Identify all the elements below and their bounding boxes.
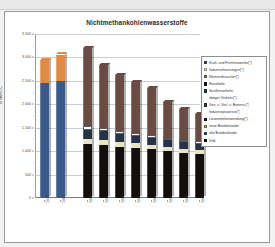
legend-item[interactable]: Kraft- und Fernheizwerke(*) bbox=[204, 59, 264, 66]
bar-segment bbox=[147, 88, 156, 135]
y-axis-minor-tick bbox=[33, 92, 34, 93]
legend-item[interactable]: Kleinverbraucher(*) bbox=[204, 73, 264, 80]
y-axis-tick-label: 0 bbox=[29, 196, 31, 200]
y-axis-minor-tick bbox=[33, 186, 34, 187]
legend-swatch-icon bbox=[204, 68, 207, 71]
bar-segment bbox=[83, 144, 92, 198]
y-axis-minor-tick bbox=[33, 69, 34, 70]
bar-segment bbox=[131, 82, 140, 133]
bar-segment bbox=[115, 134, 124, 142]
bar-segment bbox=[179, 142, 188, 148]
bar-segment bbox=[163, 102, 172, 137]
bar-segment bbox=[195, 154, 204, 198]
bar-segment bbox=[40, 60, 49, 83]
y-axis-minor-tick bbox=[33, 139, 34, 140]
y-axis-tick-label: 3.000 bbox=[22, 55, 31, 59]
bar-shadow bbox=[108, 63, 110, 196]
legend-item[interactable]: Haushalte bbox=[204, 80, 264, 87]
x-axis-tick-label: 1991 bbox=[105, 195, 109, 203]
x-axis-tick-label: 1992 bbox=[121, 195, 125, 203]
legend-swatch-icon bbox=[204, 139, 207, 142]
bar-segment bbox=[99, 140, 108, 145]
legend-item-label: Lösemittelverwendung(*) bbox=[209, 117, 248, 121]
bar-segment bbox=[163, 147, 172, 151]
legend-item[interactable]: Ges. u. Verl. v. Brennst.(*) bbox=[204, 102, 264, 109]
x-axis-tick bbox=[103, 200, 104, 202]
bar-segment bbox=[163, 140, 172, 147]
legend-swatch-icon bbox=[204, 111, 207, 114]
legend-item-label: Kleinverbraucher(*) bbox=[209, 75, 239, 79]
chart-screenshot: Nichtmethankohlenwasserstoffe kt NMVOC 0… bbox=[0, 0, 275, 247]
bar-top-cap bbox=[98, 63, 109, 65]
x-axis-tick-label: 1995 bbox=[169, 195, 173, 203]
bar-shadow bbox=[65, 53, 67, 196]
y-axis-tick bbox=[32, 127, 34, 128]
y-axis-tick-label: 3.500 bbox=[22, 32, 31, 36]
x-axis-tick bbox=[60, 200, 61, 202]
y-axis-minor-tick bbox=[33, 116, 34, 117]
bar-shadow bbox=[124, 73, 126, 196]
bar-segment bbox=[131, 133, 140, 136]
y-axis-tick bbox=[32, 198, 34, 199]
legend-item[interactable]: alte Bundesländer bbox=[204, 130, 264, 137]
bar-top-cap bbox=[130, 80, 141, 82]
y-axis-tick-label: 2.000 bbox=[22, 102, 31, 106]
chart-frame: Nichtmethankohlenwasserstoffe kt NMVOC 0… bbox=[4, 11, 270, 243]
x-axis-tick-label: 1996 bbox=[185, 195, 189, 203]
bar-top-cap bbox=[82, 46, 93, 48]
y-axis-minor-tick bbox=[33, 162, 34, 163]
y-axis-tick bbox=[32, 57, 34, 58]
bar-top-cap bbox=[114, 73, 125, 75]
legend-item-label: neue Bundesländer bbox=[209, 124, 239, 128]
legend-item[interactable]: Industriefeuerungen(*) bbox=[204, 66, 264, 73]
y-axis-tick bbox=[32, 151, 34, 152]
legend-item-label: Dtld. bbox=[209, 139, 216, 143]
bar-series-group bbox=[35, 34, 200, 198]
legend-item-label: übriger Verkehr(*) bbox=[209, 96, 237, 100]
x-axis-tick-label: 1993 bbox=[137, 195, 141, 203]
bar-segment bbox=[147, 135, 156, 138]
bar-segment bbox=[56, 81, 65, 198]
bar-top-cap bbox=[39, 58, 50, 60]
x-axis-tick-label: 1990 bbox=[89, 195, 93, 203]
legend-item-label: Industriefeuerungen(*) bbox=[209, 68, 244, 72]
bar-segment bbox=[115, 131, 124, 134]
bar-segment bbox=[131, 143, 140, 148]
x-axis-tick-label: 1980 bbox=[62, 195, 66, 203]
legend-swatch-icon bbox=[204, 118, 207, 121]
x-axis-tick bbox=[183, 200, 184, 202]
y-axis-tick bbox=[32, 174, 34, 175]
bar-segment bbox=[147, 149, 156, 198]
legend-item[interactable]: neue Bundesländer bbox=[204, 123, 264, 130]
bar-shadow bbox=[156, 86, 158, 196]
bar-segment bbox=[147, 138, 156, 145]
legend-swatch-icon bbox=[204, 61, 207, 64]
bar-segment bbox=[179, 140, 188, 142]
bar-segment bbox=[99, 131, 108, 139]
bar-segment bbox=[147, 145, 156, 150]
legend-item-label: Industrieprozesse(*) bbox=[209, 110, 240, 114]
legend-swatch-icon bbox=[204, 89, 207, 92]
x-axis-tick bbox=[151, 200, 152, 202]
legend-item[interactable]: Straßenverkehr bbox=[204, 87, 264, 94]
bar-segment bbox=[40, 83, 49, 198]
legend-item[interactable]: Industrieprozesse(*) bbox=[204, 109, 264, 116]
bar-top-cap bbox=[178, 107, 189, 109]
y-axis-tick-label: 1.000 bbox=[22, 149, 31, 153]
bar-top-cap bbox=[146, 86, 157, 88]
bar-segment bbox=[163, 138, 172, 141]
x-axis-tick-label: 1994 bbox=[153, 195, 157, 203]
bar-segment bbox=[99, 145, 108, 198]
y-axis-title: kt NMVOC bbox=[0, 86, 3, 104]
legend-item[interactable]: Dtld. bbox=[204, 137, 264, 144]
y-axis-tick-label: 2.500 bbox=[22, 79, 31, 83]
bar-segment bbox=[115, 147, 124, 198]
bar-segment bbox=[131, 136, 140, 143]
legend-item[interactable]: Lösemittelverwendung(*) bbox=[204, 116, 264, 123]
legend-item-label: Ges. u. Verl. v. Brennst.(*) bbox=[209, 103, 249, 107]
x-axis-labels: 1970198019901991199219931994199519961997 bbox=[35, 200, 200, 246]
bar-segment bbox=[131, 148, 140, 198]
legend-item-label: Kraft- und Fernheizwerke(*) bbox=[209, 61, 252, 65]
legend-item[interactable]: übriger Verkehr(*) bbox=[204, 94, 264, 101]
legend-item-label: alte Bundesländer bbox=[209, 131, 237, 135]
